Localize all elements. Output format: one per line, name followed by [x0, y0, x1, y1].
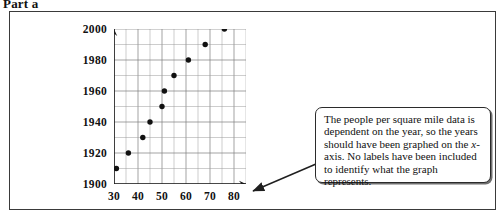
y-tick-1900: 1900	[83, 178, 114, 190]
callout-text: The people per square mile data is depen…	[324, 113, 483, 187]
y-tick-2000: 2000	[83, 23, 114, 35]
y-tick-1940: 1940	[83, 116, 114, 128]
callout-arrow-icon	[240, 160, 325, 202]
scatter-plot: 190019201940196019802000 304050607080	[114, 29, 246, 184]
worksheet-page: Part a 190019201940196019802000 30405060…	[0, 0, 504, 224]
y-tick-1920: 1920	[83, 147, 114, 159]
callout-box: The people per square mile data is depen…	[315, 107, 491, 183]
x-tick-70: 70	[204, 190, 216, 202]
y-tick-1960: 1960	[83, 85, 114, 97]
x-tick-50: 50	[156, 190, 168, 202]
plot-area	[114, 29, 246, 184]
x-tick-40: 40	[132, 190, 144, 202]
y-tick-1980: 1980	[83, 54, 114, 66]
x-tick-30: 30	[108, 190, 120, 202]
x-tick-80: 80	[228, 190, 240, 202]
x-tick-60: 60	[180, 190, 192, 202]
data-points-layer	[114, 29, 246, 184]
content-frame: 190019201940196019802000 304050607080 Th…	[9, 11, 496, 210]
